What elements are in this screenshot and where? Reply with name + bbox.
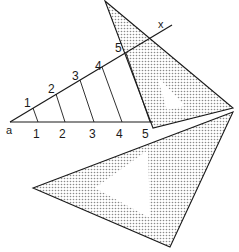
label-point-x: x bbox=[158, 18, 164, 30]
label-inclined-3: 3 bbox=[72, 69, 79, 83]
label-base-1: 1 bbox=[33, 127, 40, 141]
division-line-3 bbox=[80, 80, 94, 122]
label-inclined-4: 4 bbox=[95, 59, 102, 73]
label-inclined-2: 2 bbox=[48, 82, 55, 96]
upper-set-square[interactable] bbox=[105, 1, 233, 128]
label-base-3: 3 bbox=[89, 127, 96, 141]
division-line-1 bbox=[33, 108, 38, 122]
label-base-4: 4 bbox=[116, 127, 123, 141]
division-line-4 bbox=[102, 67, 122, 122]
label-base-2: 2 bbox=[59, 127, 66, 141]
label-inclined-1: 1 bbox=[24, 96, 31, 110]
label-base-5: 5 bbox=[142, 127, 149, 141]
label-point-a: a bbox=[6, 124, 13, 136]
label-inclined-5: 5 bbox=[115, 41, 122, 55]
set-square-division-diagram: a x 1 2 3 4 5 1 2 3 4 5 bbox=[0, 0, 239, 252]
division-line-2 bbox=[56, 94, 65, 122]
